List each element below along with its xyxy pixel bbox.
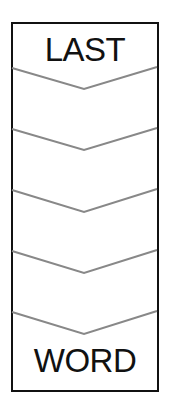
blank-rung-2[interactable]	[13, 153, 157, 189]
bottom-word: WORD	[13, 344, 157, 377]
blank-rung-4[interactable]	[13, 275, 157, 311]
top-word: LAST	[13, 33, 157, 66]
blank-rung-1[interactable]	[13, 92, 157, 128]
blank-rung-3[interactable]	[13, 214, 157, 250]
word-ladder-box	[11, 22, 159, 392]
